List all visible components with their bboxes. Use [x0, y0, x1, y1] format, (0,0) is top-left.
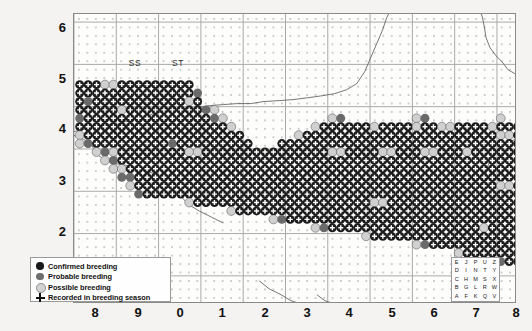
breeding-record-symbols [75, 80, 515, 283]
x-axis-tick: 6 [430, 306, 437, 319]
grid-letter: K [471, 292, 480, 301]
grid-letter: A [452, 292, 461, 301]
map-legend: Confirmed breedingProbable breedingPossi… [30, 257, 171, 302]
sheet-label: ST [172, 58, 184, 68]
x-axis-tick: 8 [512, 306, 519, 319]
legend-label: Recorded in breeding season [48, 293, 150, 302]
x-axis-tick: 9 [134, 306, 141, 319]
grid-letter: S [480, 275, 489, 284]
grid-letter: H [461, 275, 470, 284]
grid-letter-key: EJPUZDINTYCHMSXBGLRWAFKQV [451, 257, 500, 302]
x-axis-tick: 0 [176, 306, 183, 319]
x-axis-tick: 3 [303, 306, 310, 319]
x-axis-tick: 7 [472, 306, 479, 319]
legend-label: Confirmed breeding [48, 262, 117, 271]
x-axis-tick: 1 [218, 306, 225, 319]
grid-letter: T [480, 267, 489, 276]
x-axis-labels: 89012345678 [0, 306, 532, 326]
legend-item: Possible breeding [35, 282, 166, 292]
y-axis-tick: 2 [59, 225, 66, 238]
grid-letter: W [490, 284, 499, 293]
grid-letter: B [452, 284, 461, 293]
grid-letter: D [452, 267, 461, 276]
filled-circle-darkgray-icon [35, 272, 47, 282]
y-axis-tick: 4 [59, 122, 66, 135]
x-axis-tick: 8 [91, 306, 98, 319]
sheet-label: SS [129, 58, 141, 68]
atlas-map-page: 654321 89012345678 SSST Confirmed breedi… [0, 0, 532, 331]
legend-label: Possible breeding [48, 283, 111, 292]
grid-letter: J [461, 258, 470, 267]
legend-item: Recorded in breeding season [35, 293, 166, 303]
grid-letter: N [471, 267, 480, 276]
y-axis-tick: 5 [59, 72, 66, 85]
legend-item: Probable breeding [35, 272, 166, 282]
grid-letter: X [490, 275, 499, 284]
legend-label: Probable breeding [48, 272, 112, 281]
grid-letter: Q [480, 292, 489, 301]
legend-item: Confirmed breeding [35, 261, 166, 271]
open-circle-lightgray-icon [35, 282, 47, 292]
grid-letter: P [471, 258, 480, 267]
x-axis-tick: 5 [388, 306, 395, 319]
grid-letter: I [461, 267, 470, 276]
plus-mark-icon [35, 293, 47, 303]
grid-letter: G [461, 284, 470, 293]
grid-letter: R [480, 284, 489, 293]
x-axis-tick: 2 [261, 306, 268, 319]
grid-letter: E [452, 258, 461, 267]
grid-letter: V [490, 292, 499, 301]
filled-circle-black-icon [35, 261, 47, 271]
x-axis-tick: 4 [345, 306, 352, 319]
grid-letter: U [480, 258, 489, 267]
grid-letter: M [471, 275, 480, 284]
y-axis-tick: 3 [59, 174, 66, 187]
grid-letter: Y [490, 267, 499, 276]
grid-letter: Z [490, 258, 499, 267]
y-axis-tick: 6 [59, 21, 66, 34]
grid-letter: C [452, 275, 461, 284]
grid-letter: L [471, 284, 480, 293]
grid-letter: F [461, 292, 470, 301]
